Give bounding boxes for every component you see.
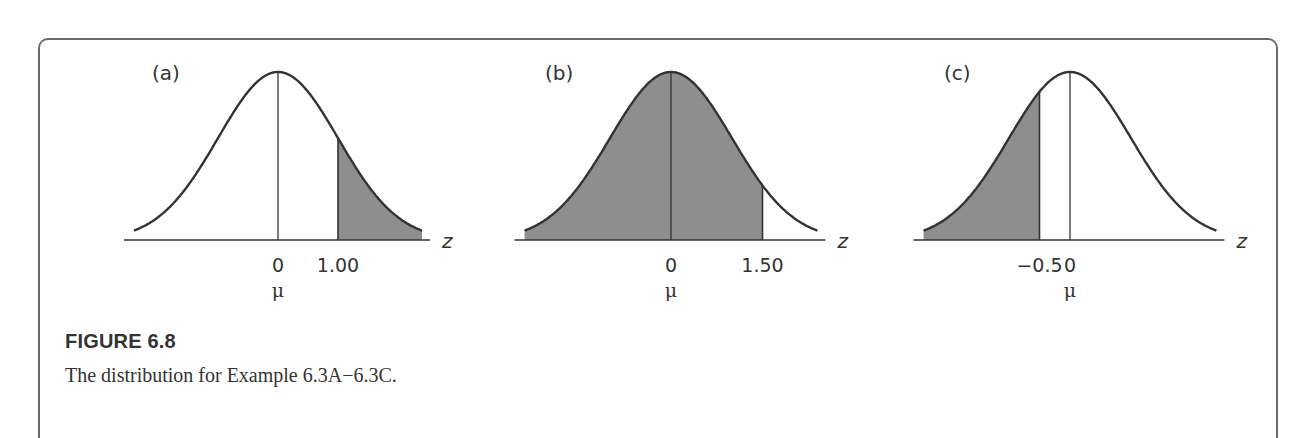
tick-label: 1.00 bbox=[317, 254, 359, 276]
panel-c: z−0.50μ(c) bbox=[914, 61, 1248, 301]
tick-label: 1.50 bbox=[741, 254, 783, 276]
tick-label: −0.5 bbox=[1016, 254, 1062, 276]
panel-a: z01.00μ(a) bbox=[124, 61, 453, 301]
shaded-area bbox=[525, 72, 763, 240]
panel-b: z01.50μ(b) bbox=[515, 61, 849, 301]
panel-label: (a) bbox=[152, 61, 180, 85]
mean-label: μ bbox=[1064, 279, 1076, 301]
mean-label: μ bbox=[665, 279, 677, 301]
z-axis-label: z bbox=[1235, 229, 1247, 253]
figure-caption: The distribution for Example 6.3A−6.3C. bbox=[65, 364, 397, 387]
tick-label: 0 bbox=[665, 254, 677, 276]
figure-title: FIGURE 6.8 bbox=[65, 330, 176, 353]
tick-label: 0 bbox=[1064, 254, 1076, 276]
panel-label: (c) bbox=[944, 61, 971, 85]
panel-label: (b) bbox=[545, 61, 573, 85]
tick-label: 0 bbox=[272, 254, 284, 276]
z-axis-label: z bbox=[836, 229, 848, 253]
mean-label: μ bbox=[272, 279, 284, 301]
z-axis-label: z bbox=[441, 229, 453, 253]
shaded-area bbox=[924, 92, 1040, 240]
